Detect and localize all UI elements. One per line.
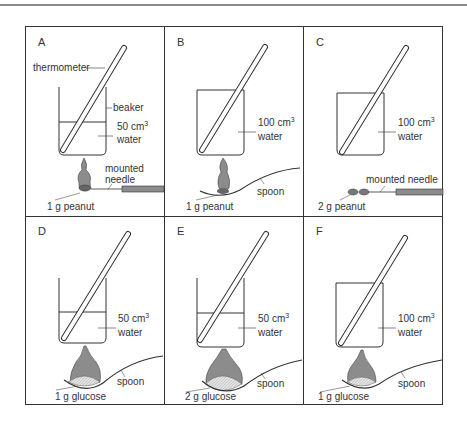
- water-volume-label: 100 cm3: [398, 312, 435, 324]
- needle-handle: [396, 189, 443, 195]
- thermometer-label: thermometer: [33, 62, 90, 73]
- peanut-icon-2: [359, 189, 369, 195]
- spoon-label: spoon: [398, 378, 425, 389]
- water-volume-label: 50 cm3: [258, 312, 289, 324]
- flame-icon: [218, 158, 230, 191]
- water-label: water: [117, 327, 143, 338]
- spoon-label: spoon: [257, 186, 284, 197]
- fuel-label: 1 g glucose: [55, 391, 107, 402]
- fuel-label: 2 g peanut: [318, 201, 365, 212]
- fuel-label: 2 g glucose: [185, 391, 237, 402]
- spoon-label: spoon: [117, 376, 144, 387]
- panel-label: F: [316, 225, 323, 237]
- panel-d: D 50 cm3 water spoon 1 g glucose: [38, 225, 163, 402]
- panel-label: D: [38, 225, 46, 237]
- thermometer-icon: [342, 48, 406, 152]
- peanut-icon: [217, 188, 229, 194]
- water-volume-label: 50 cm3: [117, 120, 148, 132]
- panel-label: A: [38, 36, 46, 48]
- water-label: water: [397, 131, 423, 142]
- panel-grid: [25, 26, 443, 405]
- needle-label: mounted needle: [366, 174, 438, 185]
- panel-c: C 100 cm3 water mounted needle 2 g peanu…: [316, 36, 443, 212]
- experiment-diagram: A thermometer beaker 50 cm3 water mounte…: [0, 0, 467, 428]
- water-label: water: [257, 327, 283, 338]
- fuel-label: 1 g peanut: [186, 201, 233, 212]
- spoon-icon: [200, 168, 300, 195]
- peanut-icon: [348, 189, 358, 195]
- panel-label: B: [177, 36, 184, 48]
- panel-label: C: [316, 36, 324, 48]
- fuel-label: 1 g peanut: [47, 201, 94, 212]
- water-label: water: [116, 134, 142, 145]
- water-volume-label: 100 cm3: [398, 116, 435, 128]
- peanut-icon: [79, 185, 91, 191]
- water-label: water: [257, 131, 283, 142]
- panel-label: E: [177, 225, 184, 237]
- panel-e: E 50 cm3 water spoon 2 g glucose: [177, 225, 302, 402]
- water-volume-label: 100 cm3: [258, 116, 295, 128]
- thermometer-icon: [200, 234, 266, 340]
- fuel-label: 1 g glucose: [318, 391, 370, 402]
- panel-a: A thermometer beaker 50 cm3 water mounte…: [33, 36, 164, 212]
- panel-f: F 100 cm3 water spoon 1 g glucose: [316, 225, 442, 402]
- spoon-label: spoon: [257, 378, 284, 389]
- water-label: water: [397, 327, 423, 338]
- thermometer-icon: [341, 238, 405, 343]
- needle-label-2: needle: [105, 174, 135, 185]
- needle-handle: [122, 186, 164, 192]
- needle-label: mounted: [105, 163, 144, 174]
- panel-b: B 100 cm3 water spoon 1 g peanut: [177, 36, 300, 212]
- thermometer-icon: [202, 47, 265, 150]
- water-volume-label: 50 cm3: [118, 312, 149, 324]
- beaker-label: beaker: [113, 102, 144, 113]
